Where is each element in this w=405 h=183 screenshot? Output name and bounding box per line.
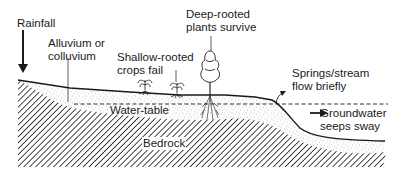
label-bedrock: Bedrock (142, 137, 186, 150)
springs-arrow-icon (276, 91, 286, 103)
label-shallow-rooted: Shallow-rooted crops fail (117, 51, 194, 76)
label-groundwater: Groundwater seeps sway (320, 107, 386, 132)
rainfall-arrow-icon (18, 30, 28, 73)
deep-rooted-tree-icon (201, 51, 220, 82)
label-deep-rooted: Deep-rooted plants survive (186, 8, 256, 33)
label-alluvium: Alluvium or colluvium (48, 37, 105, 62)
label-water-table: Water-table (110, 104, 169, 117)
label-rainfall: Rainfall (17, 17, 55, 30)
label-springs: Springs/stream flow briefly (292, 67, 369, 92)
